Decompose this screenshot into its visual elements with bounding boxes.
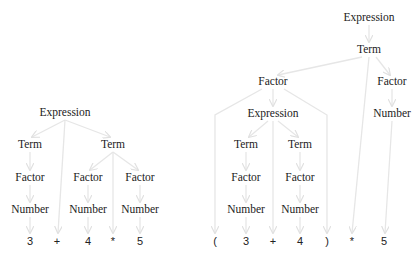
node-factor: Factor <box>377 76 406 88</box>
token: 3 <box>243 236 249 247</box>
edge-arrow <box>278 121 298 137</box>
node-factor: Factor <box>258 76 287 88</box>
token: ) <box>325 236 329 247</box>
token: * <box>350 236 354 247</box>
node-number: Number <box>281 204 319 216</box>
token: 4 <box>297 236 303 247</box>
tree-edges <box>0 0 418 256</box>
edge-arrow <box>58 120 65 233</box>
node-factor: Factor <box>125 172 154 184</box>
node-number: Number <box>69 204 107 216</box>
node-expression: Expression <box>343 12 394 24</box>
node-term: Term <box>101 139 125 151</box>
token: 4 <box>85 236 91 247</box>
token: 5 <box>137 236 143 247</box>
edge-arrow <box>249 121 268 137</box>
node-term: Term <box>234 139 258 151</box>
node-term: Term <box>357 44 381 56</box>
token: + <box>54 236 60 247</box>
node-term: Term <box>288 139 312 151</box>
edge-lines <box>30 25 392 233</box>
node-number: Number <box>11 204 49 216</box>
node-number: Number <box>227 204 265 216</box>
node-number: Number <box>121 204 159 216</box>
node-expression: Expression <box>247 108 298 120</box>
token: + <box>270 236 276 247</box>
edge-arrow <box>90 152 113 170</box>
node-term: Term <box>18 139 42 151</box>
node-expression: Expression <box>39 107 90 119</box>
token: * <box>111 236 115 247</box>
node-factor: Factor <box>231 172 260 184</box>
edge-arrow <box>376 57 390 75</box>
node-factor: Factor <box>15 172 44 184</box>
edge-arrow <box>113 152 138 170</box>
edge-arrow <box>352 57 369 233</box>
token: 3 <box>27 236 33 247</box>
token: 5 <box>381 236 387 247</box>
edge-arrow <box>32 120 65 137</box>
token: ( <box>213 236 217 247</box>
node-factor: Factor <box>73 172 102 184</box>
edge-arrow <box>278 57 362 75</box>
edge-arrow <box>385 121 392 233</box>
node-number: Number <box>373 108 411 120</box>
node-factor: Factor <box>285 172 314 184</box>
edge-arrow <box>65 120 110 137</box>
